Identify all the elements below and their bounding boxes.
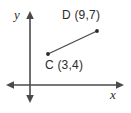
point-c-label: C (3,4) (45, 59, 83, 72)
arrow-down-icon (26, 95, 34, 103)
y-axis-label: y (14, 8, 20, 21)
point-d-label: D (9,7) (62, 9, 100, 22)
coordinate-plane-figure: y x D (9,7) C (3,4) (0, 0, 131, 113)
arrow-right-icon (116, 81, 124, 89)
arrow-up-icon (26, 11, 34, 19)
point-c-marker (46, 52, 50, 56)
arrow-left-icon (6, 81, 14, 89)
segment-cd (48, 31, 97, 54)
point-d-marker (95, 29, 99, 33)
x-axis-label: x (110, 88, 116, 101)
